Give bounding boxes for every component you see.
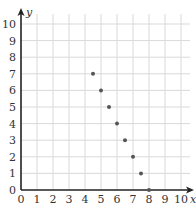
x-tick-label: 4: [82, 193, 89, 206]
x-tick-label: 9: [162, 193, 169, 206]
data-points: [91, 72, 151, 192]
data-point: [99, 88, 103, 92]
grid: [21, 14, 190, 190]
data-point: [91, 72, 95, 76]
data-point: [115, 122, 119, 126]
x-tick-label: 1: [34, 193, 41, 206]
y-tick-label: 1: [9, 167, 16, 180]
y-tick-label: 6: [9, 84, 16, 97]
x-tick-label: 10: [174, 193, 188, 206]
data-point: [123, 138, 127, 142]
x-tick-label: 6: [114, 193, 121, 206]
axes: [18, 8, 195, 194]
scatter-chart: 012345678910 012345678910 x y: [0, 0, 196, 206]
data-point: [147, 188, 151, 192]
y-tick-label: 0: [9, 184, 16, 197]
data-point: [139, 171, 143, 175]
y-axis-label: y: [25, 6, 33, 19]
y-tick-label: 5: [9, 101, 16, 114]
x-tick-label: 8: [146, 193, 153, 206]
data-point: [107, 105, 111, 109]
y-tick-label: 9: [9, 35, 16, 48]
x-tick-label: 2: [50, 193, 57, 206]
x-axis-label: x: [190, 193, 196, 206]
y-tick-label: 2: [9, 151, 16, 164]
data-point: [131, 155, 135, 159]
x-tick-labels: 012345678910: [18, 193, 189, 206]
y-tick-label: 4: [9, 118, 16, 131]
y-tick-label: 3: [9, 134, 16, 147]
y-tick-labels: 012345678910: [2, 18, 16, 197]
y-tick-label: 7: [9, 68, 16, 81]
x-tick-label: 0: [18, 193, 25, 206]
y-tick-label: 10: [2, 18, 16, 31]
x-tick-label: 7: [130, 193, 137, 206]
y-tick-label: 8: [9, 51, 16, 64]
x-tick-label: 3: [66, 193, 73, 206]
x-tick-label: 5: [98, 193, 105, 206]
